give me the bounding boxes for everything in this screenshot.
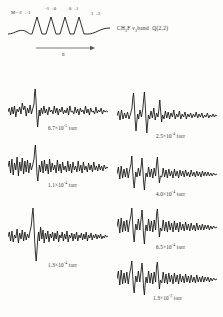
schematic-trace	[6, 14, 116, 42]
pressure-unit-l3: torr	[69, 262, 77, 268]
pressure-exponent-r4: -3	[169, 294, 173, 298]
pressure-mantissa-l3: 1.3	[48, 262, 55, 268]
spectrum-trace-l3	[8, 205, 108, 265]
pressure-unit-r2: torr	[177, 191, 185, 197]
pressure-label-r1: 2.5×10-4 torr	[156, 133, 185, 139]
pressure-mantissa-l2: 1.1	[48, 182, 55, 188]
spectrum-trace-r1	[117, 88, 217, 138]
pressure-exponent-r2: -4	[172, 190, 176, 194]
pressure-label-r4: 1.3×10-3 torr	[153, 295, 182, 301]
pressure-mantissa-r2: 4.0	[156, 191, 163, 197]
pressure-mantissa-r3: 6.5	[156, 244, 163, 250]
pressure-unit-l1: torr	[69, 125, 77, 131]
transition-schematic	[6, 14, 116, 42]
pressure-mantissa-l1: 6.7	[48, 125, 55, 131]
transition-label-4: 1→2	[91, 12, 101, 17]
caption-band-word: band	[137, 25, 149, 31]
pressure-mantissa-r4: 1.3	[153, 295, 160, 301]
e-axis-label: E	[62, 52, 65, 57]
caption-molecule-prefix: CH	[117, 25, 125, 31]
transition-label-1: M=-2→-1	[11, 11, 31, 16]
spectrum-trace-r2	[117, 150, 217, 194]
transition-label-2: -1→0	[45, 7, 56, 12]
pressure-exponent-l3: -4	[64, 261, 68, 265]
pressure-unit-r4: torr	[174, 295, 182, 301]
caption-branch: Q(2,2)	[152, 25, 168, 31]
pressure-label-l2: 1.1×10-4 torr	[48, 182, 77, 188]
figure-caption: CH3F ν3band Q(2,2)	[117, 26, 168, 34]
pressure-exponent-l2: -4	[64, 181, 68, 185]
pressure-label-l3: 1.3×10-4 torr	[48, 262, 77, 268]
caption-molecule-suffix: F	[127, 25, 130, 31]
e-axis-arrow	[36, 45, 96, 51]
pressure-label-l1: 6.7×10-5 torr	[48, 125, 77, 131]
pressure-unit-r3: torr	[177, 244, 185, 250]
transition-label-3: 0→1	[69, 7, 79, 12]
pressure-mantissa-r1: 2.5	[156, 133, 163, 139]
spectrum-trace-r3	[117, 203, 217, 247]
spectrum-trace-r4	[117, 256, 217, 298]
stark-spectra-figure: M=-2→-1 -1→0 0→1 1→2 E CH3F ν3band Q(2,2…	[0, 0, 223, 317]
pressure-exponent-r1: -4	[172, 132, 176, 136]
pressure-label-r2: 4.0×10-4 torr	[156, 191, 185, 197]
pressure-unit-l2: torr	[69, 182, 77, 188]
pressure-exponent-r3: -4	[172, 243, 176, 247]
pressure-label-r3: 6.5×10-4 torr	[156, 244, 185, 250]
pressure-unit-r1: torr	[177, 133, 185, 139]
pressure-exponent-l1: -5	[64, 124, 68, 128]
